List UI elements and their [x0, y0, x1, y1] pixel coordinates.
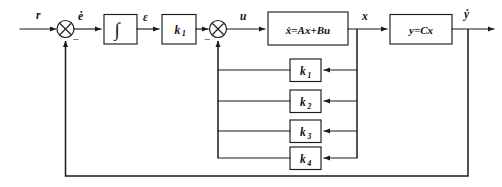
label-error-rate: ė [78, 10, 83, 22]
label-state: x [361, 10, 368, 22]
summing-junction-2 [210, 21, 227, 38]
output-equation-label: y=Cx [407, 24, 433, 36]
forward-gain-label: k [175, 24, 181, 36]
forward-gain-block: k 1 [162, 15, 196, 45]
wire-outer-feedback-loop [66, 29, 469, 176]
summing-junction-1-minus-sign: − [73, 33, 79, 45]
block-diagram-canvas: − ∫ k 1 − ẋ=Ax+Bu [0, 0, 502, 187]
feedback-gain-k4-label: k [300, 153, 306, 165]
integrator-block: ∫ [104, 15, 137, 45]
feedback-gain-k1: k 1 [218, 59, 357, 82]
feedback-gain-k2: k 2 [218, 90, 357, 113]
feedback-gain-k2-subscript: 2 [307, 102, 312, 111]
block-diagram-svg: − ∫ k 1 − ẋ=Ax+Bu [0, 0, 502, 187]
summing-junction-2-minus-sign: − [204, 33, 210, 45]
feedback-gain-k1-label: k [300, 65, 306, 77]
feedback-gain-k3-label: k [300, 126, 306, 138]
summing-junction-1 [57, 21, 74, 38]
feedback-gain-k2-label: k [300, 96, 306, 108]
label-reference: r [36, 9, 41, 21]
plant-state-equation-block: ẋ=Ax+Bu [268, 12, 348, 45]
feedback-gain-k4-subscript: 4 [307, 159, 312, 168]
feedback-gain-k4: k 4 [218, 147, 357, 170]
plant-equation-label: ẋ=Ax+Bu [285, 24, 330, 36]
feedback-gain-k3: k 3 [218, 120, 357, 143]
label-output: ẏ [462, 8, 470, 21]
forward-gain-subscript: 1 [182, 29, 186, 38]
output-equation-block: y=Cx [390, 15, 452, 45]
label-control: u [240, 10, 247, 22]
feedback-gain-k1-subscript: 1 [308, 71, 312, 80]
feedback-gain-k3-subscript: 3 [307, 132, 312, 141]
label-error-integral: ε [143, 11, 148, 23]
